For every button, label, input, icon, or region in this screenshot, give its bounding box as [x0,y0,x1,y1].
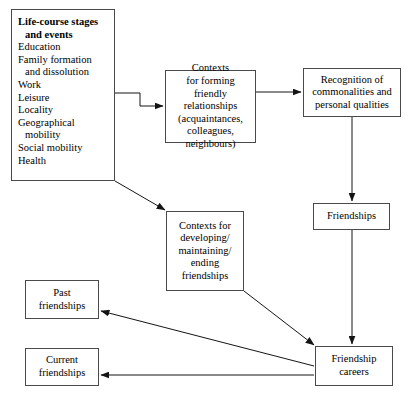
node-line: relationships [184,100,238,113]
node-line: Family formation [18,54,92,67]
node-current-friendships[interactable]: Current friendships [25,348,99,386]
node-line: friendships [39,367,86,380]
node-life-course-stages-and-events[interactable]: Life-course stages and events Education … [11,9,115,181]
edge-life-course-to-contexts-forming [115,93,163,106]
node-contexts-for-developing-friendships[interactable]: Contexts for developing/ maintaining/ en… [166,211,244,291]
node-friendships[interactable]: Friendships [313,203,390,230]
edge-life-course-to-contexts-developing [115,181,165,210]
node-line: careers [339,366,369,379]
node-line: friendships [182,270,229,283]
node-line: neighbours) [185,138,235,151]
node-line: ending [191,257,220,270]
node-line: Friendships [327,210,376,223]
node-line: (acquaintances, [178,113,243,126]
node-line: Leisure [18,92,50,105]
node-line: and dissolution [18,66,89,79]
node-recognition-of-commonalities[interactable]: Recognition of commonalities and persona… [303,68,401,117]
node-line: and events [18,29,73,42]
node-line: colleagues, [187,125,234,138]
node-line: Work [18,79,41,92]
node-line: Contexts [192,62,229,75]
node-line: Health [18,155,46,168]
node-contexts-for-forming-friendly-relationships[interactable]: Contexts for forming friendly relationsh… [165,70,256,143]
node-line: Recognition of [321,74,384,87]
node-line: mobility [18,129,61,142]
node-line: Life-course stages [18,16,98,29]
node-line: friendly [194,88,227,101]
node-line: friendships [39,300,86,313]
node-line: commonalities and [312,86,392,99]
node-line: maintaining/ [178,245,231,258]
node-line: Geographical [18,117,75,130]
node-line: Education [18,41,61,54]
node-line: developing/ [180,232,230,245]
node-line: Contexts for [179,220,231,233]
node-line: Locality [18,104,53,117]
node-line: Past [53,287,71,300]
node-line: personal qualities [315,99,389,112]
edge-friendship-careers-to-past-friendships [101,311,314,366]
node-line: Current [46,354,78,367]
node-line: Social mobility [18,142,82,155]
node-line: Friendship [332,353,377,366]
diagram-canvas: Life-course stages and events Education … [0,0,409,400]
node-friendship-careers[interactable]: Friendship careers [315,346,393,386]
edge-contexts-developing-to-friendship-careers [244,291,314,345]
node-past-friendships[interactable]: Past friendships [25,280,99,319]
node-line: for forming [186,75,235,88]
